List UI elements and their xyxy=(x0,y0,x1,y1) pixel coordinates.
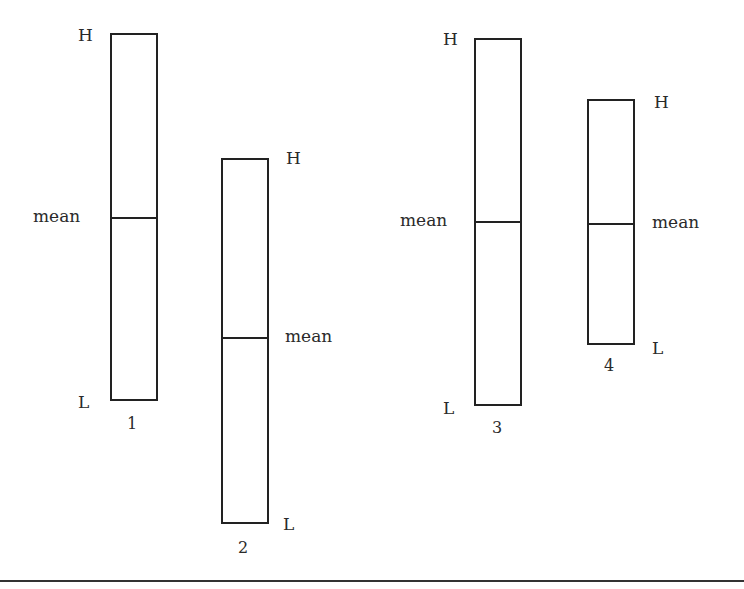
bar-2 xyxy=(221,158,269,524)
bar-4-high-label: H xyxy=(654,94,669,111)
bar-1-low-label: L xyxy=(78,394,89,411)
bar-3-low-label: L xyxy=(443,400,454,417)
bar-1-mean-label: mean xyxy=(33,208,80,225)
bar-4 xyxy=(587,99,635,345)
bar-3-high-label: H xyxy=(443,31,458,48)
bar-2-mean-label: mean xyxy=(285,328,332,345)
bar-1-mean-line xyxy=(112,217,156,219)
bar-3 xyxy=(474,38,522,406)
bar-2-low-label: L xyxy=(283,516,294,533)
bar-2-number-label: 2 xyxy=(233,540,253,556)
bar-2-mean-line xyxy=(223,337,267,339)
bar-1-number-label: 1 xyxy=(122,416,142,432)
bottom-divider xyxy=(0,580,744,582)
bar-3-number-label: 3 xyxy=(487,420,507,436)
bar-4-low-label: L xyxy=(652,340,663,357)
bar-1-high-label: H xyxy=(78,27,93,44)
bar-3-mean-label: mean xyxy=(400,212,447,229)
bar-4-mean-line xyxy=(589,223,633,225)
bar-1 xyxy=(110,33,158,401)
range-bar-diagram: H mean L 1 H mean L 2 H mean L 3 H mean … xyxy=(0,0,744,589)
bar-4-mean-label: mean xyxy=(652,214,699,231)
bar-3-mean-line xyxy=(476,221,520,223)
bar-4-number-label: 4 xyxy=(599,358,619,374)
bar-2-high-label: H xyxy=(286,150,301,167)
